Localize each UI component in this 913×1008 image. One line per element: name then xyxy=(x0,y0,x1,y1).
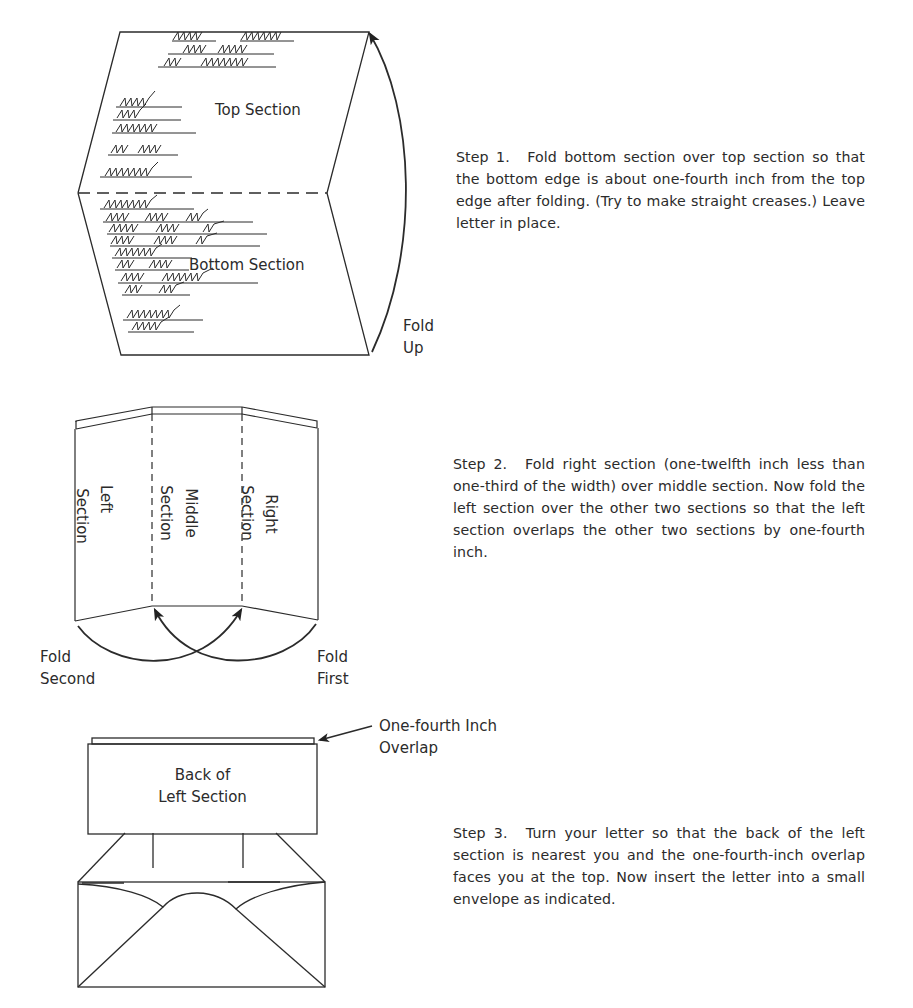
fold-up-label-line2: Up xyxy=(403,337,424,359)
left-section-label-line1: Left xyxy=(97,461,115,537)
bottom-section-label: Bottom Section xyxy=(189,254,305,276)
back-of-left-section-label-line2: Left Section xyxy=(88,786,317,808)
envelope-flap-curve xyxy=(78,882,325,909)
envelope-body xyxy=(78,882,325,987)
back-of-left-section-label-line1: Back of xyxy=(88,764,317,786)
overlap-label-line1: One-fourth Inch xyxy=(379,715,497,737)
insert-guide-left xyxy=(78,833,125,882)
envelope-pocket-left xyxy=(78,907,163,987)
fold-second-label-line1: Fold xyxy=(40,646,71,668)
step1-diagram xyxy=(78,32,406,355)
fold-up-label-line1: Fold xyxy=(403,315,434,337)
step1-label: Step 1. xyxy=(456,149,510,165)
letter-folding-instructions: Top Section Bottom Section Fold Up Step … xyxy=(0,0,913,1008)
bottom-edge xyxy=(75,606,318,621)
step3-instructions: Step 3. Turn your letter so that the bac… xyxy=(453,822,865,910)
folded-top-edge-outer xyxy=(76,407,317,428)
step2-label: Step 2. xyxy=(453,456,507,472)
insert-guide-right xyxy=(276,833,325,882)
step3-label: Step 3. xyxy=(453,825,508,841)
step3-text: Turn your letter so that the back of the… xyxy=(453,825,865,907)
fold-second-label-line2: Second xyxy=(40,668,95,690)
overlap-pointer-arrow xyxy=(320,726,372,740)
step1-instructions: Step 1. Fold bottom section over top sec… xyxy=(456,146,865,234)
step2-instructions: Step 2. Fold right section (one-twelfth … xyxy=(453,453,865,563)
fold-up-arrow xyxy=(370,34,406,352)
folded-top-edge-inner xyxy=(76,414,317,429)
fold-first-label-line1: Fold xyxy=(317,646,348,668)
right-section-label-line2: Section xyxy=(238,475,256,551)
step1-text: Fold bottom section over top section so … xyxy=(456,149,865,231)
left-section-label-line2: Section xyxy=(73,478,91,554)
fold-first-label-line2: First xyxy=(317,668,349,690)
middle-section-label-line2: Section xyxy=(157,475,175,551)
overlap-strip xyxy=(92,738,314,744)
middle-section-label-line1: Middle xyxy=(182,475,200,551)
envelope-pocket-right xyxy=(236,909,325,987)
step2-text: Fold right section (one-twelfth inch les… xyxy=(453,456,865,560)
overlap-label-line2: Overlap xyxy=(379,737,438,759)
top-section-label: Top Section xyxy=(215,99,301,121)
right-section-label-line1: Right xyxy=(262,476,280,552)
